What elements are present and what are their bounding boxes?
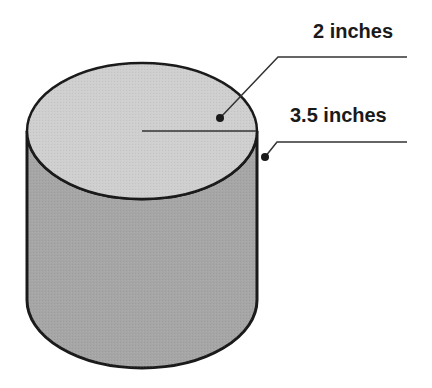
cylinder-diagram <box>0 0 432 388</box>
height-label: 3.5 inches <box>290 104 387 127</box>
height-leader <box>261 142 407 161</box>
diameter-label: 2 inches <box>313 20 393 43</box>
